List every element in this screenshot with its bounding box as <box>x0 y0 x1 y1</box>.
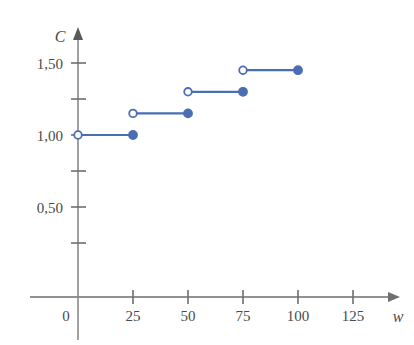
y-tick-label-1-50: 1,50 <box>37 56 63 72</box>
open-endpoint-marker <box>239 66 247 74</box>
y-tick-label-0-50: 0,50 <box>37 200 63 216</box>
x-tick-label-25: 25 <box>126 308 141 324</box>
x-tick-label-100: 100 <box>287 308 310 324</box>
closed-endpoint-marker <box>184 109 192 117</box>
x-tick-label-125: 125 <box>342 308 365 324</box>
x-axis-name-label: w <box>393 308 404 325</box>
y-axis-arrow-icon <box>73 27 83 40</box>
y-tick-label-1-00: 1,00 <box>37 128 63 144</box>
axis-group <box>30 27 400 340</box>
x-tick-label-75: 75 <box>236 308 251 324</box>
step-function-chart: 1,50 1,00 0,50 0 25 50 75 100 125 C w <box>0 0 414 345</box>
chart-canvas: 1,50 1,00 0,50 0 25 50 75 100 125 C w <box>0 0 414 345</box>
closed-endpoint-marker <box>239 88 247 96</box>
open-endpoint-marker <box>129 110 137 118</box>
open-endpoint-marker <box>184 88 192 96</box>
y-axis-name-label: C <box>55 28 66 45</box>
x-tick-label-0: 0 <box>62 308 70 324</box>
closed-endpoint-marker <box>294 66 302 74</box>
closed-endpoint-marker <box>129 131 137 139</box>
x-tick-label-50: 50 <box>181 308 196 324</box>
open-endpoint-marker <box>74 131 82 139</box>
step-series <box>74 66 302 139</box>
x-axis-arrow-icon <box>388 292 400 302</box>
